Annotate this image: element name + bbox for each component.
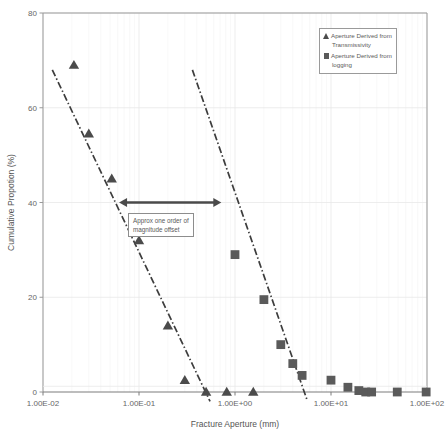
data-point-square-4 bbox=[298, 371, 307, 380]
legend-item-logging: Aperture Derived fromlogging bbox=[323, 52, 392, 70]
data-points bbox=[69, 60, 431, 396]
offset-annotation-box: Approx one order of magnitude offset bbox=[128, 213, 194, 238]
legend-label-transmissivity: Aperture Derived fromTransmissivity bbox=[331, 32, 392, 50]
chart-legend: Aperture Derived fromTransmissivity Aper… bbox=[319, 28, 397, 74]
data-point-square-3 bbox=[288, 359, 297, 368]
data-point-square-6 bbox=[344, 383, 353, 392]
data-point-square-2 bbox=[276, 340, 285, 349]
data-point-square-10 bbox=[393, 388, 402, 397]
data-point-square-1 bbox=[259, 295, 268, 304]
legend-label-logging-line2: logging bbox=[331, 61, 392, 70]
svg-text:1.00E-01: 1.00E-01 bbox=[123, 399, 156, 408]
svg-text:1.00E+01: 1.00E+01 bbox=[314, 399, 349, 408]
legend-label-transmissivity-line1: Aperture Derived from bbox=[331, 32, 392, 39]
data-point-triangle-0 bbox=[69, 60, 79, 69]
data-point-square-5 bbox=[327, 376, 336, 385]
svg-text:40: 40 bbox=[28, 199, 37, 208]
square-marker-icon bbox=[323, 52, 330, 59]
legend-label-transmissivity-line2: Transmissivity bbox=[331, 41, 392, 50]
svg-text:1.00E+00: 1.00E+00 bbox=[218, 399, 253, 408]
svg-text:1.00E+02: 1.00E+02 bbox=[410, 399, 445, 408]
svg-text:60: 60 bbox=[28, 104, 37, 113]
data-point-triangle-4 bbox=[163, 320, 173, 329]
offset-annotation-line1: Approx one order of bbox=[133, 216, 189, 225]
y-axis-title: Cumulative Propotion (%) bbox=[6, 154, 16, 251]
x-axis-title: Fracture Aperture (mm) bbox=[191, 419, 279, 429]
data-point-square-0 bbox=[231, 250, 240, 259]
trendline-1 bbox=[192, 70, 307, 402]
legend-label-logging-line1: Aperture Derived from bbox=[331, 52, 392, 59]
arrow-head-left bbox=[119, 198, 127, 207]
data-point-triangle-6 bbox=[201, 387, 211, 396]
legend-item-transmissivity: Aperture Derived fromTransmissivity bbox=[323, 32, 392, 50]
data-point-square-9 bbox=[367, 388, 376, 397]
offset-annotation-line2: magnitude offset bbox=[133, 225, 189, 234]
data-point-triangle-2 bbox=[107, 174, 117, 183]
triangle-marker-icon bbox=[323, 32, 330, 39]
axis-labels: Fracture Aperture (mm)Cumulative Propoti… bbox=[6, 154, 279, 429]
chart-root: 0204060801.00E-021.00E-011.00E+001.00E+0… bbox=[0, 0, 446, 436]
legend-label-logging: Aperture Derived fromlogging bbox=[331, 52, 392, 70]
svg-text:80: 80 bbox=[28, 9, 37, 18]
svg-text:1.00E-02: 1.00E-02 bbox=[27, 399, 60, 408]
data-point-square-11 bbox=[422, 388, 431, 397]
svg-text:0: 0 bbox=[33, 388, 38, 397]
data-point-triangle-8 bbox=[248, 387, 258, 396]
data-point-triangle-5 bbox=[180, 375, 190, 384]
svg-text:20: 20 bbox=[28, 293, 37, 302]
data-point-triangle-1 bbox=[84, 129, 94, 138]
